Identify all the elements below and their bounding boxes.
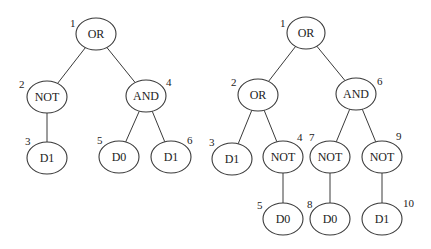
tree-right: OR1OR2D13NOT4D05AND6NOT7D08NOT9D110 xyxy=(209,17,415,235)
node-label: NOT xyxy=(35,90,60,104)
node-index-number: 9 xyxy=(396,130,402,142)
node-or-2: OR2 xyxy=(231,76,278,111)
node-d1-3: D13 xyxy=(25,135,67,174)
node-index-number: 4 xyxy=(166,76,172,88)
node-label: NOT xyxy=(318,150,343,164)
node-not-7: NOT7 xyxy=(309,131,350,173)
nodes: OR1OR2D13NOT4D05AND6NOT7D08NOT9D110 xyxy=(209,17,415,235)
node-not-9: NOT9 xyxy=(362,130,402,173)
node-d0-8: D08 xyxy=(307,198,350,235)
node-not-2: NOT2 xyxy=(19,78,67,113)
node-d0-5: D05 xyxy=(257,199,303,235)
node-label: D1 xyxy=(164,150,179,164)
node-index-number: 6 xyxy=(187,134,193,146)
edge-6-9 xyxy=(362,109,375,142)
node-index-number: 5 xyxy=(97,134,103,146)
edge-1-2 xyxy=(269,46,296,81)
node-index-number: 2 xyxy=(19,78,25,90)
node-index-number: 6 xyxy=(377,75,383,87)
node-index-number: 1 xyxy=(280,17,286,29)
node-index-number: 5 xyxy=(257,199,263,211)
node-label: D1 xyxy=(375,212,390,226)
edge-2-3 xyxy=(238,110,252,144)
node-index-number: 2 xyxy=(231,76,237,88)
node-index-number: 3 xyxy=(209,136,215,148)
node-index-number: 1 xyxy=(70,17,76,29)
edge-6-7 xyxy=(336,109,349,142)
node-index-number: 4 xyxy=(297,131,303,143)
node-d0-5: D05 xyxy=(97,134,139,173)
node-label: D0 xyxy=(323,212,338,226)
expression-trees-diagram: OR1NOT2D13AND4D05D16 OR1OR2D13NOT4D05AND… xyxy=(0,0,431,249)
node-label: OR xyxy=(88,27,105,41)
node-label: D0 xyxy=(112,150,127,164)
node-d1-6: D16 xyxy=(151,134,193,173)
node-label: D0 xyxy=(276,212,291,226)
node-or-1: OR1 xyxy=(280,17,325,49)
node-and-4: AND4 xyxy=(126,76,172,112)
node-or-1: OR1 xyxy=(70,17,116,50)
node-label: OR xyxy=(250,88,267,102)
edge-1-6 xyxy=(317,46,345,80)
node-label: AND xyxy=(343,87,369,101)
node-d1-3: D13 xyxy=(209,136,252,175)
node-index-number: 8 xyxy=(307,198,313,210)
node-label: AND xyxy=(133,89,159,103)
node-label: NOT xyxy=(271,150,296,164)
node-label: NOT xyxy=(370,150,395,164)
nodes: OR1NOT2D13AND4D05D16 xyxy=(19,17,193,174)
node-label: D1 xyxy=(225,152,240,166)
edges xyxy=(238,46,382,203)
node-index-number: 3 xyxy=(25,135,31,147)
node-not-4: NOT4 xyxy=(263,131,303,173)
node-index-number: 10 xyxy=(403,197,415,209)
node-d1-10: D110 xyxy=(362,197,415,235)
tree-left: OR1NOT2D13AND4D05D16 xyxy=(19,17,193,174)
edge-4-5 xyxy=(126,111,140,142)
node-and-6: AND6 xyxy=(336,75,383,110)
edge-1-4 xyxy=(107,47,135,82)
node-label: D1 xyxy=(40,151,55,165)
edge-2-4 xyxy=(264,110,277,142)
edge-4-6 xyxy=(152,111,165,142)
node-label: OR xyxy=(298,26,315,40)
node-index-number: 7 xyxy=(309,131,315,143)
edge-1-2 xyxy=(58,48,86,84)
